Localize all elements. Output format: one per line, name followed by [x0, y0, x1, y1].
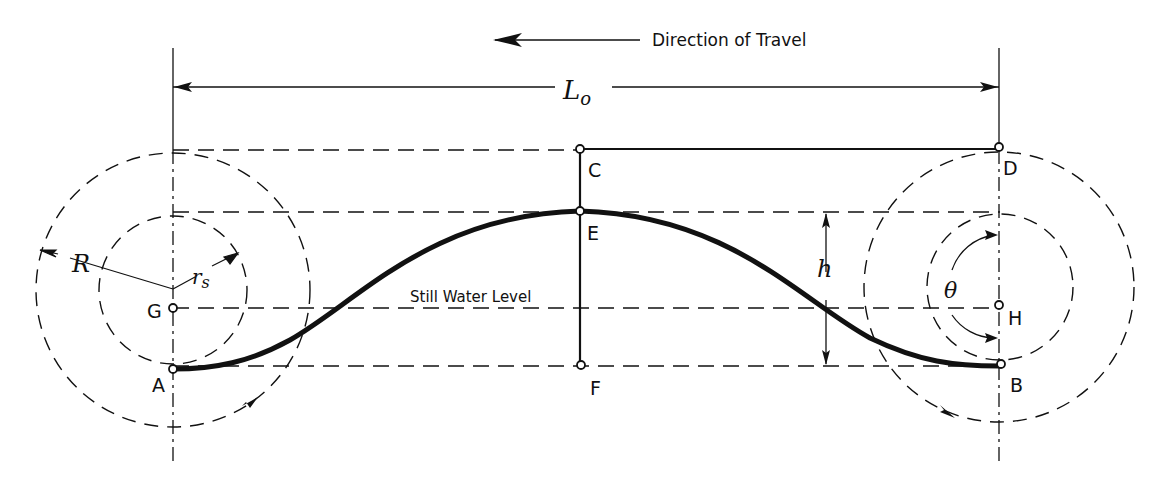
label-b: B [1010, 374, 1023, 396]
angle-arc [952, 230, 998, 343]
label-c: C [588, 159, 601, 181]
wave-height-dimension [822, 213, 830, 365]
label-g: G [147, 300, 162, 322]
inner-radius-label: rs [192, 265, 210, 292]
wave-orbit-diagram: Direction of Travel Lo R [0, 0, 1158, 483]
point-a [169, 365, 177, 373]
direction-arrow [493, 33, 640, 47]
point-c [576, 145, 584, 153]
point-b [997, 360, 1005, 368]
direction-label: Direction of Travel [652, 30, 807, 50]
label-h: H [1008, 307, 1022, 329]
label-d: D [1003, 157, 1018, 179]
right-orbit-arrow-icon [940, 405, 955, 418]
label-e: E [587, 222, 599, 244]
point-g [169, 304, 177, 312]
point-d [995, 143, 1003, 151]
outer-radius-label: R [71, 250, 90, 278]
label-a: A [152, 374, 165, 396]
angle-label: θ [944, 278, 957, 303]
wavelength-label: Lo [562, 75, 591, 109]
label-f: F [590, 377, 601, 399]
wave-height-label: h [817, 255, 832, 283]
point-e [576, 207, 584, 215]
point-f [577, 361, 585, 369]
vertical-axes [173, 48, 999, 462]
still-water-label: Still Water Level [410, 288, 531, 306]
diagram-canvas: Direction of Travel Lo R [0, 0, 1158, 483]
wave-profile [173, 211, 999, 369]
point-h [995, 301, 1003, 309]
